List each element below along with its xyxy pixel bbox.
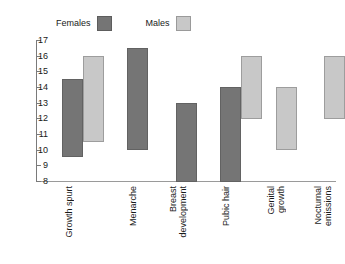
x-label-breast-development-line2: development <box>178 186 188 238</box>
legend-item-males: Males <box>146 16 191 31</box>
legend-label-males: Males <box>146 19 170 28</box>
x-label-breast-development-cont: development <box>178 186 188 238</box>
x-label-growth-spurt: Growth spurt <box>64 186 74 238</box>
legend-label-females: Females <box>56 19 91 28</box>
x-label-nocturnal-emissions-line1: Nocturnal <box>313 186 323 225</box>
bar-growth-spurt-females <box>62 79 83 157</box>
bar-genital-growth-males <box>276 87 297 150</box>
chart-legend: Females Males <box>56 13 191 33</box>
x-label-genital-growth: Genital <box>266 186 276 215</box>
x-label-nocturnal-emissions: Nocturnal <box>313 186 323 225</box>
x-label-pubic-hair-line1: Pubic hair <box>221 186 231 226</box>
legend-swatch-females <box>97 16 112 31</box>
bar-nocturnal-emissions-males <box>324 56 345 119</box>
plot-area: 17 16 15 14 13 12 11 10 9 8 <box>20 36 336 186</box>
legend-swatch-males <box>176 16 191 31</box>
x-label-breast-development: Breast <box>168 186 178 212</box>
x-label-menarche-line1: Menarche <box>128 186 138 226</box>
x-label-genital-growth-cont: growth <box>276 186 286 213</box>
bar-breast-development-females <box>176 103 197 182</box>
bar-growth-spurt-males <box>83 56 104 142</box>
legend-item-females: Females <box>56 16 112 31</box>
x-label-breast-development-line1: Breast <box>168 186 178 212</box>
x-label-nocturnal-emissions-line2: emissions <box>323 186 333 226</box>
x-label-growth-spurt-line1: Growth spurt <box>64 186 74 238</box>
bar-pubic-hair-females <box>220 87 241 182</box>
bar-pubic-hair-males <box>241 56 262 119</box>
x-label-menarche: Menarche <box>128 186 138 226</box>
x-axis-category-labels: Growth spurt Menarche Breast development… <box>20 186 336 264</box>
x-label-nocturnal-emissions-cont: emissions <box>323 186 333 226</box>
x-label-pubic-hair: Pubic hair <box>221 186 231 226</box>
bars-layer <box>37 36 336 182</box>
x-label-genital-growth-line2: growth <box>276 186 286 213</box>
x-label-genital-growth-line1: Genital <box>266 186 276 215</box>
bar-menarche-females <box>127 48 148 150</box>
